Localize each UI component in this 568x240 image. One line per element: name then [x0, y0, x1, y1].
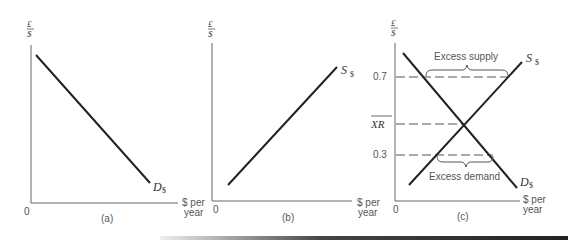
panel-c-caption: (c) [457, 211, 469, 222]
panel-c-tick-0-3: 0.3 [373, 149, 387, 160]
panel-b-supply-sub: $ [350, 70, 354, 79]
panel-b-x-axis-label-line2: year [358, 207, 378, 218]
panel-b-caption: (b) [282, 212, 294, 223]
panel-c-excess-demand-brace [437, 156, 493, 167]
panel-c-supply-sub: $ [535, 58, 539, 67]
panel-b-supply-label: S [341, 63, 347, 77]
panel-c-demand-label: D [519, 175, 529, 189]
panel-c-demand-curve [403, 53, 517, 188]
panel-a-x-axis-label-line2: year [184, 207, 204, 218]
panel-c-demand-sub: $ [529, 181, 533, 190]
panel-c-supply-label: S [526, 51, 532, 65]
panel-b-axes [212, 43, 352, 201]
panel-a-demand-curve [36, 55, 150, 183]
panel-c-x-axis-label-line2: year [523, 204, 543, 215]
panel-c-excess-supply-brace [426, 65, 508, 76]
panel-c-origin: 0 [393, 204, 399, 215]
panel-c-tick-xr: XR [370, 118, 385, 130]
panel-b-origin: 0 [213, 204, 219, 215]
panel-c-excess-supply-label: Excess supply [434, 51, 498, 62]
panel-a: £ $ D $ 0 (a) [24, 19, 178, 224]
panel-b-supply-curve [228, 67, 337, 185]
panel-c-excess-demand-label: Excess demand [429, 171, 500, 182]
panel-b-y-label-bottom: $ [208, 29, 213, 39]
panel-b-y-label-top: £ [208, 19, 213, 29]
page-edge-shadow [160, 236, 568, 240]
panel-a-y-label-top: £ [27, 19, 32, 29]
panel-c-tick-0-7: 0.7 [373, 71, 387, 82]
panel-a-caption: (a) [101, 213, 113, 224]
diagram-canvas: £ $ D $ 0 (a) $ per year £ $ S $ 0 (b) $… [0, 0, 568, 240]
panel-a-y-label-bottom: $ [27, 29, 32, 39]
panel-c-y-label-top: £ [391, 18, 396, 28]
panel-c-y-label-bottom: $ [391, 28, 396, 38]
panel-b: $ per year £ $ S $ 0 (b) [182, 19, 354, 223]
panel-a-demand-sub: $ [162, 186, 166, 195]
panel-a-origin: 0 [24, 206, 30, 217]
panel-a-demand-label: D [152, 180, 162, 194]
panel-c: $ per year £ $ 0.7 XR 0.3 Excess supply … [357, 18, 546, 222]
